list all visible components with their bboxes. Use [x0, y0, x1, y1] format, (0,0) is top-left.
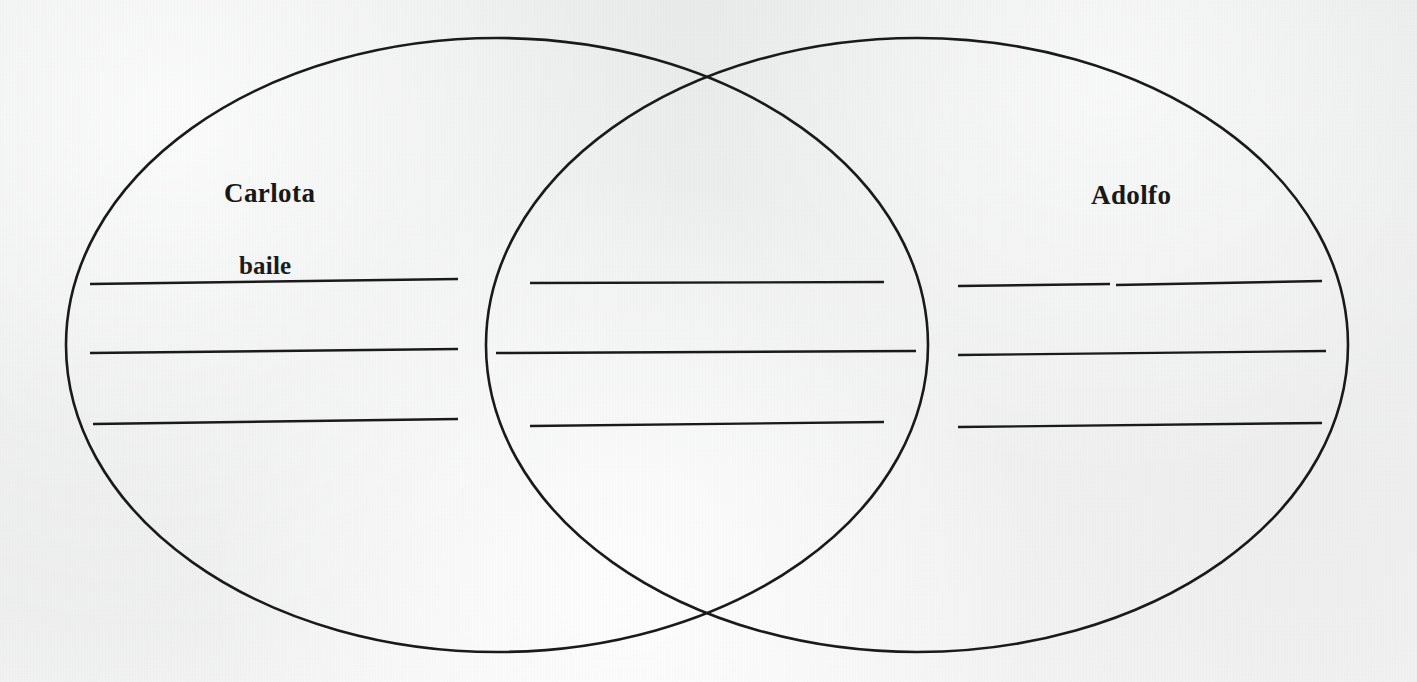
- left-set-label: Carlota: [224, 178, 315, 209]
- right-writing-line-1b[interactable]: [1116, 281, 1322, 285]
- center-writing-line-3[interactable]: [530, 422, 884, 426]
- right-writing-line-2[interactable]: [958, 351, 1326, 355]
- worksheet-page: Carlota Adolfo baile: [0, 0, 1417, 682]
- center-writing-line-2[interactable]: [496, 351, 916, 353]
- left-writing-line-3[interactable]: [93, 419, 458, 424]
- venn-diagram-graphic: [0, 0, 1417, 682]
- center-writing-line-1[interactable]: [530, 282, 884, 283]
- right-set-ellipse: [486, 38, 1348, 652]
- left-entry-1[interactable]: baile: [239, 252, 291, 280]
- right-writing-line-1a[interactable]: [958, 284, 1110, 286]
- left-set-ellipse: [66, 38, 928, 652]
- right-set-label: Adolfo: [1091, 180, 1171, 211]
- left-writing-line-2[interactable]: [90, 349, 458, 353]
- right-writing-line-3[interactable]: [958, 423, 1322, 427]
